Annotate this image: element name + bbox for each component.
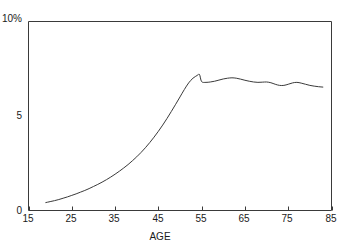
- y-axis-label-5: 5: [0, 110, 22, 121]
- x-axis-label-45: 45: [143, 213, 173, 224]
- data-series-line: [46, 74, 323, 203]
- x-axis-label-75: 75: [272, 213, 302, 224]
- axis-frame: [29, 22, 332, 211]
- x-axis-label-15: 15: [13, 213, 43, 224]
- x-axis-ticks: [30, 207, 333, 211]
- y-axis-label-top: 10%: [0, 13, 22, 24]
- x-axis-label-65: 65: [229, 213, 259, 224]
- chart-figure: 10% 5 0 15 25 35 45 55 65 75 85 AGE: [0, 0, 345, 251]
- x-axis-label-35: 35: [99, 213, 129, 224]
- x-axis-label-85: 85: [316, 213, 345, 224]
- x-axis-label-55: 55: [186, 213, 216, 224]
- x-axis-label-25: 25: [56, 213, 86, 224]
- x-axis-title: AGE: [130, 231, 190, 242]
